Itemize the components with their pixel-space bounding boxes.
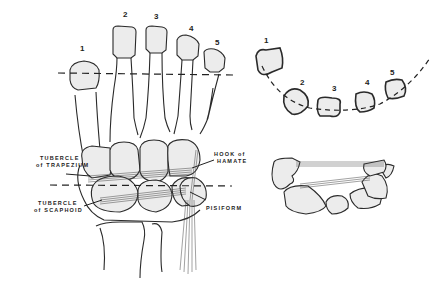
- label-hook-of-hamate: HOOK of HAMATE: [214, 151, 247, 165]
- label-tubercle-trapezium: TUBERCLE of TRAPEZIUM: [36, 155, 89, 169]
- metacarpal-number-2: 2: [123, 10, 127, 19]
- section-number-5: 5: [390, 68, 394, 77]
- wrist-diagram: [0, 0, 441, 288]
- label-pisiform: PISIFORM: [206, 205, 242, 212]
- section-number-4: 4: [365, 78, 369, 87]
- carpal-bones: [78, 140, 207, 222]
- metacarpal-number-5: 5: [215, 38, 219, 47]
- section-number-1: 1: [264, 36, 268, 45]
- forearm-bones: [96, 222, 162, 278]
- carpal-cross-section: [272, 158, 394, 214]
- metacarpal-cross-section: [256, 48, 430, 117]
- section-number-2: 2: [300, 78, 304, 87]
- metacarpals: [70, 26, 225, 160]
- label-tubercle-scaphoid: TUBERCLE of SCAPHOID: [34, 200, 83, 214]
- metacarpal-number-1: 1: [80, 44, 84, 53]
- section-number-3: 3: [332, 84, 336, 93]
- metacarpal-number-3: 3: [154, 12, 158, 21]
- metacarpal-number-4: 4: [189, 24, 193, 33]
